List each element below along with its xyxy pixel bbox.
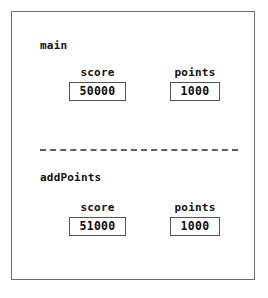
variable-label-main-score: score	[69, 66, 126, 79]
scope-title-main: main	[40, 39, 67, 52]
variable-label-main-points: points	[170, 66, 220, 79]
variable-cell-addpoints-score: score 51000	[69, 201, 126, 236]
variable-value-main-score: 50000	[69, 82, 126, 101]
variable-cell-addpoints-points: points 1000	[170, 201, 220, 236]
stack-diagram-frame: main score 50000 points 1000 addPoints s…	[11, 11, 255, 280]
variable-value-addpoints-points: 1000	[170, 217, 220, 236]
variable-cell-main-points: points 1000	[170, 66, 220, 101]
scope-divider	[40, 149, 238, 151]
variable-label-addpoints-score: score	[69, 201, 126, 214]
variable-label-addpoints-points: points	[170, 201, 220, 214]
scope-title-addpoints: addPoints	[40, 171, 101, 184]
diagram-canvas: main score 50000 points 1000 addPoints s…	[0, 0, 268, 298]
variable-value-addpoints-score: 51000	[69, 217, 126, 236]
variable-value-main-points: 1000	[170, 82, 220, 101]
variable-cell-main-score: score 50000	[69, 66, 126, 101]
